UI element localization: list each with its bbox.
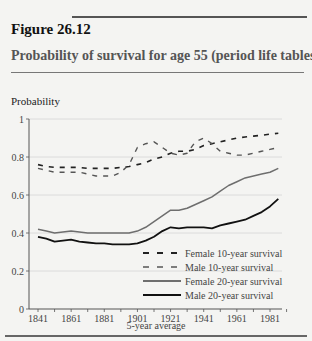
x-axis-label: 5-year average bbox=[0, 320, 312, 331]
y-tick-label: 0.8 bbox=[12, 152, 25, 163]
legend-label: Female 20-year survival bbox=[185, 276, 282, 287]
y-tick-label: 0.6 bbox=[12, 190, 25, 201]
legend-label: Male 10-year survival bbox=[185, 262, 274, 273]
y-tick-label: 0.4 bbox=[12, 228, 25, 239]
line-chart: 00.20.40.60.8118411861188119011921194119… bbox=[0, 0, 312, 341]
y-tick-label: 1 bbox=[19, 114, 24, 125]
legend-label: Female 10-year survival bbox=[185, 248, 282, 259]
legend-label: Male 20-year survival bbox=[185, 290, 274, 301]
y-tick-label: 0.2 bbox=[12, 266, 25, 277]
y-tick-label: 0 bbox=[19, 304, 24, 315]
series-male-20-year-survival bbox=[38, 199, 278, 245]
series-female-20-year-survival bbox=[38, 168, 278, 233]
series-female-10-year-survival bbox=[38, 133, 278, 168]
bottom-rule bbox=[5, 335, 307, 337]
